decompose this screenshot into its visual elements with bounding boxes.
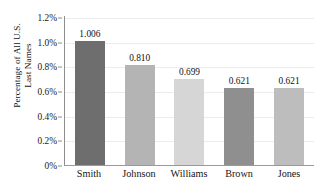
bar-slot: 0.621 [214,18,264,165]
bar[interactable]: 0.810 [125,65,155,165]
x-axis-category-label: Smith [64,168,114,179]
bar-value-label: 0.810 [129,53,150,63]
y-axis-tick-label: 0.2% [37,136,57,146]
y-axis-title-line-1: Percentage of All U.S. [12,0,23,136]
x-axis-category-label: Jones [264,168,314,179]
cropped-title-remnant [108,0,258,4]
bar-value-label: 1.006 [79,29,100,39]
y-axis-tick-label: 0.8% [37,62,57,72]
y-axis-tick-mark [58,42,62,43]
y-axis-tick-label: 0.4% [37,112,57,122]
bar[interactable]: 0.699 [174,79,204,165]
bar-slot: 1.006 [65,18,115,165]
x-axis-category-labels: SmithJohnsonWilliamsBrownJones [64,168,314,179]
y-axis-tick-label: 0% [45,161,58,171]
bar-value-label: 0.621 [229,76,250,86]
bar[interactable]: 0.621 [224,88,254,165]
y-axis-tick-labels: 1.2%1.0%0.8%0.6%0.4%0.2%0% [28,18,62,166]
bar-slot: 0.810 [115,18,165,165]
y-axis-tick-label: 1.2% [37,13,57,23]
y-axis-tick-mark [58,141,62,142]
x-axis-category-label: Johnson [114,168,164,179]
bar-series: 1.0060.8100.6990.6210.621 [65,18,314,165]
y-axis-tick-mark [58,166,62,167]
x-axis-category-label: Williams [164,168,214,179]
bar-slot: 0.621 [264,18,314,165]
x-axis-line [64,165,314,166]
y-axis-tick-label: 0.6% [37,87,57,97]
y-axis-tick-mark [58,116,62,117]
bar-slot: 0.699 [165,18,215,165]
y-axis-tick-mark [58,67,62,68]
y-axis-tick-mark [58,92,62,93]
x-axis-category-label: Brown [214,168,264,179]
bar-value-label: 0.621 [279,76,300,86]
y-axis-tick-mark [58,18,62,19]
bar[interactable]: 0.621 [274,88,304,165]
bar-value-label: 0.699 [179,67,200,77]
bar-chart: Percentage of All U.S. Last Names 1.2%1.… [0,0,318,190]
y-axis-tick-label: 1.0% [37,38,57,48]
bar[interactable]: 1.006 [75,41,105,165]
plot-area: 1.2%1.0%0.8%0.6%0.4%0.2%0% 1.0060.8100.6… [64,18,314,166]
